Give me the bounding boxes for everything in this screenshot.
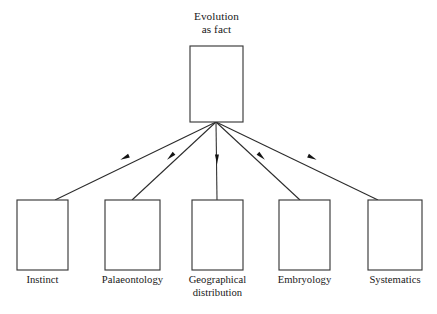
arrowhead-instinct [120, 154, 129, 160]
connector-line-palaeontology [132, 122, 216, 200]
node-box-systematics[interactable] [368, 200, 422, 270]
boxes-group [17, 46, 422, 270]
diagram-graphics-layer [0, 0, 437, 314]
node-box-evolution-as-fact[interactable] [190, 46, 243, 122]
connector-line-instinct [55, 122, 216, 200]
connector-line-systematics [216, 122, 378, 200]
arrowhead-geographical-distribution [215, 154, 219, 164]
connector-line-embryology [216, 122, 300, 200]
node-box-instinct[interactable] [17, 200, 68, 270]
node-label-systematics: Systematics [335, 274, 437, 287]
node-box-geographical-distribution[interactable] [192, 200, 243, 270]
node-box-embryology[interactable] [279, 200, 330, 270]
diagram-canvas: Evolution as fact InstinctPalaeontologyG… [0, 0, 437, 314]
arrowhead-embryology [257, 152, 265, 160]
arrowhead-palaeontology [167, 152, 175, 160]
node-label-evolution-as-fact: Evolution as fact [147, 10, 287, 36]
node-box-palaeontology[interactable] [105, 200, 160, 270]
connectors-group [55, 122, 378, 200]
arrowhead-systematics [307, 154, 316, 160]
